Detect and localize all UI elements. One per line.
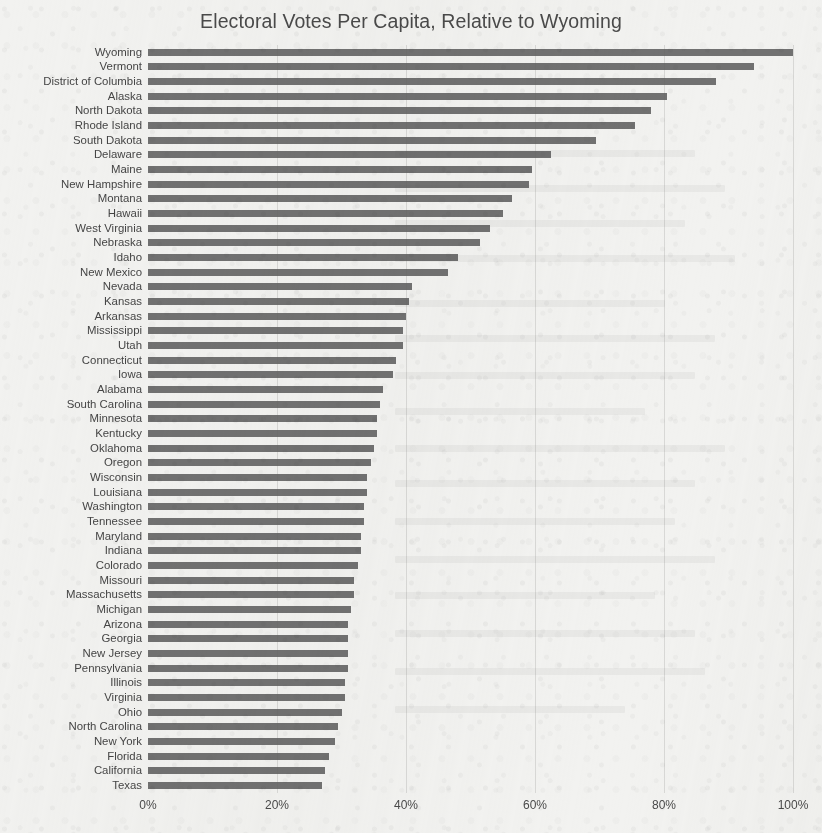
category-label: New Mexico [80, 267, 142, 278]
category-label: Washington [82, 501, 142, 512]
category-label: Maine [111, 164, 142, 175]
bar [148, 621, 348, 628]
bar-row [148, 573, 793, 588]
category-label: New York [94, 736, 142, 747]
bar-row [148, 206, 793, 221]
bar [148, 665, 348, 672]
bar [148, 313, 406, 320]
bar [148, 371, 393, 378]
bar-row [148, 588, 793, 603]
bar-row [148, 280, 793, 295]
category-label: Georgia [101, 633, 142, 644]
bar-row [148, 309, 793, 324]
bar-row [148, 412, 793, 427]
category-label: Colorado [96, 560, 142, 571]
bar [148, 254, 458, 261]
bar [148, 269, 448, 276]
category-label: Alaska [108, 91, 142, 102]
bar [148, 547, 361, 554]
bar-row [148, 192, 793, 207]
bar [148, 767, 325, 774]
category-label: Wisconsin [90, 472, 142, 483]
bar-row [148, 734, 793, 749]
category-label: Missouri [100, 575, 142, 586]
category-label: Louisiana [93, 487, 142, 498]
x-tick-label: 60% [523, 798, 547, 812]
category-label: Nevada [103, 281, 142, 292]
bar [148, 49, 793, 56]
chart-title: Electoral Votes Per Capita, Relative to … [0, 10, 822, 33]
category-label: Hawaii [108, 208, 142, 219]
bar-row [148, 470, 793, 485]
bar-row [148, 426, 793, 441]
category-label: Indiana [105, 545, 142, 556]
category-label: Minnesota [89, 413, 142, 424]
bar-row [148, 133, 793, 148]
x-tick-label: 20% [265, 798, 289, 812]
category-label: Idaho [113, 252, 142, 263]
bar [148, 459, 371, 466]
category-label: Mississippi [87, 325, 142, 336]
category-label: Virginia [104, 692, 142, 703]
category-label: Kentucky [95, 428, 142, 439]
bar-row [148, 324, 793, 339]
bar [148, 782, 322, 789]
category-label: Utah [118, 340, 142, 351]
bar-row [148, 118, 793, 133]
category-label: Texas [112, 780, 142, 791]
category-label: Alabama [97, 384, 142, 395]
bar [148, 503, 364, 510]
bar-row [148, 529, 793, 544]
category-label: District of Columbia [43, 76, 142, 87]
category-label: Iowa [118, 369, 142, 380]
category-label: Massachusetts [66, 589, 142, 600]
bar [148, 753, 329, 760]
category-label: Nebraska [93, 237, 142, 248]
bar-row [148, 236, 793, 251]
bar-row [148, 778, 793, 793]
category-label: Rhode Island [75, 120, 142, 131]
category-label: Arizona [103, 619, 142, 630]
bar [148, 342, 403, 349]
category-label: Kansas [104, 296, 142, 307]
bar [148, 709, 342, 716]
category-label: Maryland [95, 531, 142, 542]
bar-row [148, 265, 793, 280]
bar [148, 357, 396, 364]
bar-row [148, 60, 793, 75]
bar-row [148, 74, 793, 89]
category-label: California [94, 765, 142, 776]
bar [148, 562, 358, 569]
bar [148, 415, 377, 422]
bar-row [148, 45, 793, 60]
bar-row [148, 705, 793, 720]
bar [148, 738, 335, 745]
bar-row [148, 632, 793, 647]
category-label: Florida [107, 751, 142, 762]
bar [148, 635, 348, 642]
category-label: Arkansas [95, 311, 142, 322]
bar-row [148, 720, 793, 735]
bar [148, 401, 380, 408]
bar [148, 445, 374, 452]
bar-row [148, 456, 793, 471]
bar-row [148, 544, 793, 559]
bar [148, 723, 338, 730]
bar-row [148, 690, 793, 705]
bar-row [148, 676, 793, 691]
category-label: North Dakota [75, 105, 142, 116]
bar [148, 591, 354, 598]
bar [148, 181, 529, 188]
bar-row [148, 441, 793, 456]
x-tick-label: 0% [139, 798, 156, 812]
bar [148, 694, 345, 701]
gridline [793, 45, 794, 793]
bar-row [148, 646, 793, 661]
x-tick-label: 80% [652, 798, 676, 812]
category-label: Oregon [104, 457, 142, 468]
bar [148, 166, 532, 173]
bar [148, 430, 377, 437]
value-axis-labels: 0%20%40%60%80%100% [0, 798, 822, 818]
bar-row [148, 397, 793, 412]
bar-row [148, 89, 793, 104]
